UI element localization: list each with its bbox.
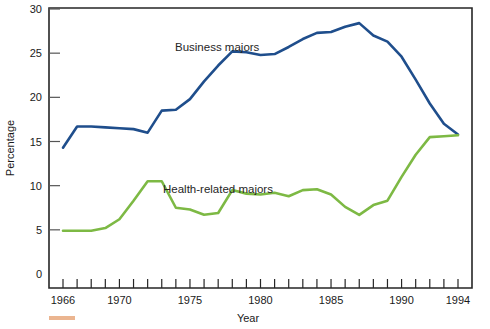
series-label-business: Business majors: [175, 41, 260, 53]
y-tick-label-30: 30: [30, 3, 42, 15]
series-lines: [63, 23, 458, 231]
y-axis-title: Percentage: [4, 120, 16, 176]
y-tick-label-15: 15: [30, 136, 42, 148]
line-chart: 051015202530 196619701975198019851990199…: [0, 0, 490, 329]
y-tick-label-20: 20: [30, 91, 42, 103]
x-tick-label-1990: 1990: [389, 294, 413, 306]
plot-border: [49, 8, 472, 288]
x-axis-title: Year: [237, 312, 260, 324]
x-axis-ticks: 1966197019751980198519901994: [51, 279, 470, 306]
x-tick-label-1980: 1980: [248, 294, 272, 306]
y-tick-label-10: 10: [30, 180, 42, 192]
x-tick-label-1994: 1994: [446, 294, 470, 306]
page-artifact-mark: [49, 316, 75, 320]
series-label-health: Health-related majors: [163, 183, 273, 195]
x-tick-label-1985: 1985: [319, 294, 343, 306]
y-tick-label-5: 5: [36, 224, 42, 236]
y-tick-label-25: 25: [30, 47, 42, 59]
chart-container: 051015202530 196619701975198019851990199…: [0, 0, 490, 329]
series-line-business-majors: [63, 23, 458, 148]
x-tick-label-1966: 1966: [51, 294, 75, 306]
y-axis-ticks: 051015202530: [30, 3, 60, 280]
plot-frame: [49, 8, 472, 288]
x-tick-label-1975: 1975: [178, 294, 202, 306]
y-tick-label-0: 0: [36, 268, 42, 280]
x-tick-label-1970: 1970: [107, 294, 131, 306]
